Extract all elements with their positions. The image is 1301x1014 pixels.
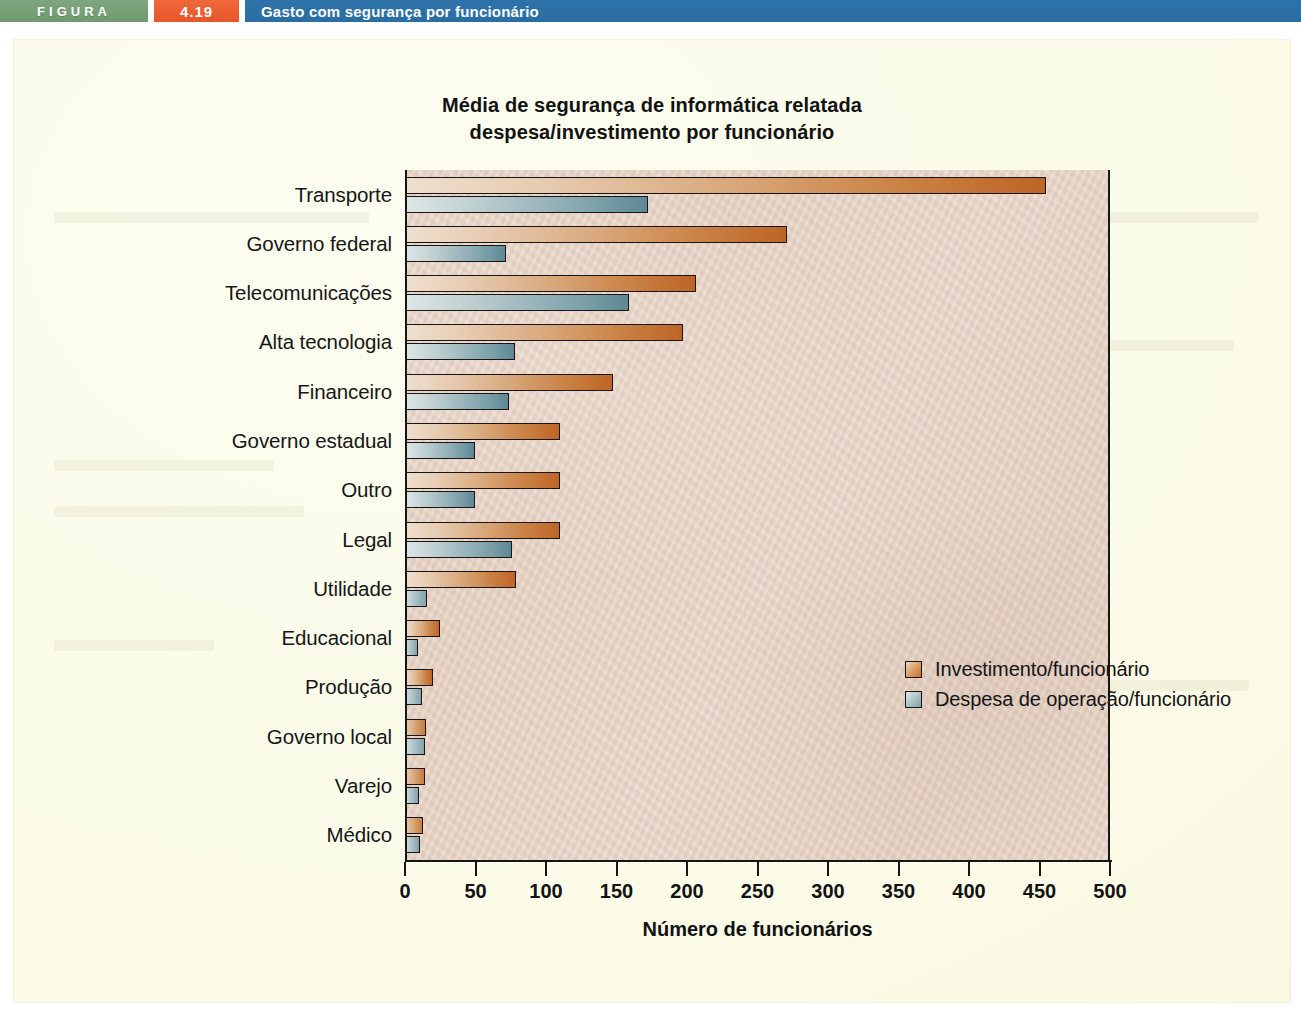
x-axis-tick-label: 50 [464,880,486,903]
x-axis-tick [686,862,688,876]
bar-invest [405,275,696,292]
bar-rows [405,170,1108,860]
x-axis-tick-label: 500 [1093,880,1126,903]
x-axis-tick [757,862,759,876]
legend-item-investment: Investimento/funcionário [905,654,1231,684]
bar-row [405,564,1108,613]
y-axis-label: Governo local [200,712,405,761]
y-axis-label: Financeiro [200,367,405,416]
bar-expense [405,688,422,705]
bar-invest [405,571,516,588]
bar-row [405,367,1108,416]
bar-invest [405,620,440,637]
legend-swatch-expense-icon [905,691,922,708]
y-axis-line [405,170,407,860]
legend-label-expense: Despesa de operação/funcionário [935,688,1231,711]
figure-banner: FIGURA 4.19 Gasto com segurança por func… [0,0,1301,22]
bar-expense [405,393,509,410]
bar-invest [405,226,787,243]
legend-item-expense: Despesa de operação/funcionário [905,684,1231,714]
x-axis-tick [898,862,900,876]
bar-invest [405,472,560,489]
bar-row [405,761,1108,810]
x-axis-tick [404,862,406,876]
x-axis-tick-label: 350 [882,880,915,903]
bar-expense [405,442,475,459]
y-axis-label: Utilidade [200,564,405,613]
chart-title: Média de segurança de informática relata… [14,92,1290,146]
banner-figura-label: FIGURA [0,0,148,22]
bar-row [405,219,1108,268]
x-axis-tick [545,862,547,876]
bar-row [405,466,1108,515]
legend-swatch-investment-icon [905,661,922,678]
bar-invest [405,719,426,736]
bar-invest [405,817,423,834]
x-axis-tick [827,862,829,876]
y-axis-label: Varejo [200,761,405,810]
bar-expense [405,196,648,213]
y-axis-label: Governo estadual [200,416,405,465]
bar-expense [405,541,512,558]
y-axis-label: Alta tecnologia [200,318,405,367]
x-axis-ticks [405,862,1110,876]
x-axis-tick [616,862,618,876]
bar-row [405,269,1108,318]
y-axis-label: Produção [200,663,405,712]
bar-row [405,712,1108,761]
bar-invest [405,768,425,785]
y-axis-label: Médico [200,811,405,860]
bar-expense [405,343,515,360]
chart-title-line-1: Média de segurança de informática relata… [14,92,1290,119]
page-showthrough [54,640,214,651]
x-axis-tick [1039,862,1041,876]
bar-invest [405,669,433,686]
legend-label-investment: Investimento/funcionário [935,658,1149,681]
y-axis-label: Governo federal [200,219,405,268]
x-axis-tick-label: 300 [811,880,844,903]
bar-chart: TransporteGoverno federalTelecomunicaçõe… [200,170,1110,960]
x-axis-tick-label: 100 [529,880,562,903]
y-axis-category-labels: TransporteGoverno federalTelecomunicaçõe… [200,170,405,860]
x-axis-tick-label: 150 [600,880,633,903]
chart-legend: Investimento/funcionário Despesa de oper… [905,654,1231,714]
bar-row [405,811,1108,860]
bar-invest [405,374,613,391]
bar-expense [405,590,427,607]
x-axis-tick [475,862,477,876]
bar-invest [405,177,1046,194]
bar-expense [405,787,419,804]
bar-row [405,318,1108,367]
bar-expense [405,738,425,755]
bar-expense [405,491,475,508]
bar-row [405,515,1108,564]
x-axis-tick [1109,862,1111,876]
x-axis-tick-label: 200 [670,880,703,903]
page-sheet: Média de segurança de informática relata… [14,40,1290,1002]
bar-row [405,170,1108,219]
y-axis-label: Transporte [200,170,405,219]
x-axis-tick-label: 0 [399,880,410,903]
plot-area: Investimento/funcionário Despesa de oper… [405,170,1110,860]
y-axis-label: Educacional [200,614,405,663]
figure-page: FIGURA 4.19 Gasto com segurança por func… [0,0,1301,1014]
bar-expense [405,294,629,311]
bar-invest [405,423,560,440]
bar-invest [405,522,560,539]
x-axis-tick-label: 250 [741,880,774,903]
banner-caption: Gasto com segurança por funcionário [245,0,1301,22]
bar-row [405,416,1108,465]
y-axis-label: Outro [200,466,405,515]
x-axis-tick-label: 400 [952,880,985,903]
y-axis-label: Telecomunicações [200,269,405,318]
bar-expense [405,836,420,853]
y-axis-label: Legal [200,515,405,564]
banner-figure-number: 4.19 [154,0,239,22]
chart-title-line-2: despesa/investimento por funcionário [14,119,1290,146]
bar-expense [405,245,506,262]
x-axis-tick [968,862,970,876]
x-axis-tick-label: 450 [1023,880,1056,903]
x-axis-title: Número de funcionários [405,918,1110,941]
x-axis-tick-labels: 050100150200250300350400450500 [405,880,1110,908]
bar-invest [405,324,683,341]
